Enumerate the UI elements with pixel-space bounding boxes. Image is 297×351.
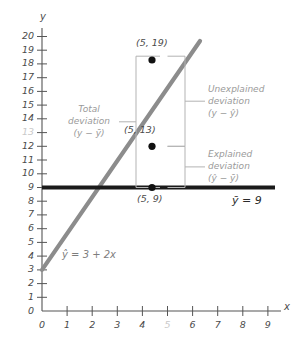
point-mean[interactable] [148,184,155,191]
point-label-observed: (5, 19) [136,37,168,48]
y-tick-13: 13 [14,126,34,137]
y-tick-10: 10 [14,167,34,178]
point-predicted[interactable] [148,143,155,150]
y-tick-18: 18 [14,57,34,68]
mean-equation-label: ȳ = 9 [232,194,262,207]
y-tick-7: 7 [14,208,34,219]
y-tick-5: 5 [14,236,34,247]
x-tick-9: 9 [262,319,274,330]
x-tick-4: 4 [136,319,148,330]
unexplained-deviation-line1: Unexplained [208,83,290,95]
explained-deviation-annotation: Explained deviation (ŷ − ȳ) [208,148,290,184]
explained-deviation-line1: Explained [208,148,290,160]
explained-deviation-line3: (ŷ − ȳ) [208,172,290,184]
y-tick-9: 9 [14,181,34,192]
unexplained-deviation-bracket [168,56,206,146]
x-tick-5: 5 [162,319,174,330]
y-tick-6: 6 [14,222,34,233]
y-tick-11: 11 [14,154,34,165]
unexplained-deviation-line2: deviation [208,95,290,107]
regression-line [42,41,200,270]
point-label-mean: (5, 9) [137,193,163,204]
y-tick-19: 19 [14,44,34,55]
y-axis-label: y [40,11,46,22]
total-deviation-bracket [119,56,160,187]
y-tick-1: 1 [14,291,34,302]
total-deviation-line1: Total [60,103,118,115]
x-tick-3: 3 [111,319,123,330]
x-tick-0: 0 [36,319,48,330]
explained-deviation-bracket [168,146,206,187]
explained-deviation-line2: deviation [208,160,290,172]
x-tick-7: 7 [212,319,224,330]
y-tick-17: 17 [14,71,34,82]
y-tick-14: 14 [14,112,34,123]
regression-deviation-figure: y x 20 19 18 17 16 15 14 13 12 11 10 9 8… [0,0,297,351]
y-tick-0: 0 [14,305,34,316]
total-deviation-line3: (y − ȳ) [60,127,118,139]
x-tick-6: 6 [187,319,199,330]
y-tick-20: 20 [14,30,34,41]
unexplained-deviation-annotation: Unexplained deviation (y − ŷ) [208,83,290,119]
y-tick-3: 3 [14,263,34,274]
total-deviation-line2: deviation [60,115,118,127]
x-tick-2: 2 [86,319,98,330]
y-tick-8: 8 [14,195,34,206]
regression-equation-label: ŷ = 3 + 2x [62,249,116,260]
y-tick-2: 2 [14,277,34,288]
unexplained-deviation-line3: (y − ŷ) [208,107,290,119]
y-tick-16: 16 [14,85,34,96]
point-label-predicted: (5, 13) [124,124,156,135]
y-tick-4: 4 [14,250,34,261]
point-observed[interactable] [148,56,155,63]
x-tick-8: 8 [237,319,249,330]
total-deviation-annotation: Total deviation (y − ȳ) [60,103,118,139]
x-axis-label: x [284,301,290,312]
y-tick-15: 15 [14,99,34,110]
y-tick-12: 12 [14,140,34,151]
x-tick-1: 1 [61,319,73,330]
